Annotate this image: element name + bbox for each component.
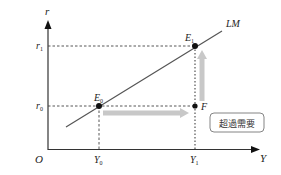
lm-diagram: r Y O LM r1 r0 Y0 Y1 E1 E0 F 超過需要 bbox=[0, 0, 281, 175]
excess-demand-box: 超過需要 bbox=[210, 113, 264, 132]
r0-label: r0 bbox=[36, 100, 43, 112]
y1-label: Y1 bbox=[190, 154, 199, 166]
adjustment-arrows bbox=[103, 50, 207, 118]
horizontal-arrow-head-icon bbox=[180, 108, 189, 118]
y0-label: Y0 bbox=[94, 154, 103, 166]
f-label: F bbox=[200, 101, 208, 112]
excess-demand-label: 超過需要 bbox=[219, 118, 255, 129]
axes bbox=[45, 20, 261, 153]
origin-label: O bbox=[35, 153, 43, 165]
vertical-arrow-head-icon bbox=[197, 50, 207, 59]
horizontal-arrow-shaft bbox=[103, 111, 181, 116]
vertical-arrow-shaft bbox=[200, 58, 205, 101]
e1-label: E1 bbox=[184, 32, 194, 44]
r1-label: r1 bbox=[36, 40, 43, 52]
x-axis-arrow-icon bbox=[251, 146, 260, 153]
y-axis-label: r bbox=[45, 5, 50, 17]
y-axis-arrow-icon bbox=[45, 20, 52, 29]
lm-label: LM bbox=[225, 18, 241, 29]
x-axis-label: Y bbox=[260, 152, 268, 164]
e0-label: E0 bbox=[93, 92, 103, 104]
point-f bbox=[192, 103, 197, 108]
